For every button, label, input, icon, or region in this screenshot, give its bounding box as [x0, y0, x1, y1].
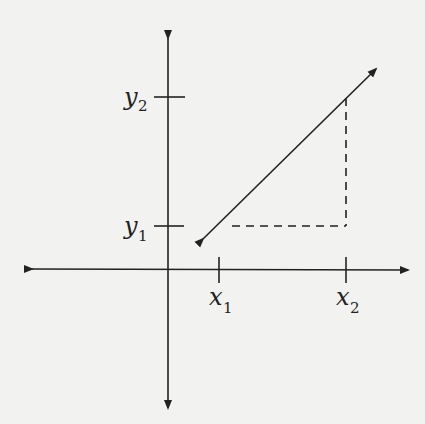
- svg-text:1: 1: [138, 227, 148, 245]
- label-x1: x 1: [209, 283, 233, 317]
- svg-text:1: 1: [223, 299, 233, 317]
- svg-text:y: y: [123, 83, 138, 111]
- label-x2: x 2: [336, 283, 360, 317]
- svg-text:x: x: [336, 283, 350, 311]
- coordinate-diagram: y 2 y 1 x 1 x 2: [0, 0, 425, 424]
- svg-text:y: y: [123, 212, 138, 240]
- x-axis: [32, 269, 408, 270]
- svg-text:2: 2: [138, 97, 148, 115]
- vector-line: [203, 69, 376, 239]
- label-y1: y 1: [123, 212, 148, 245]
- label-y2: y 2: [123, 83, 148, 115]
- svg-text:x: x: [209, 283, 223, 311]
- svg-text:2: 2: [350, 299, 360, 317]
